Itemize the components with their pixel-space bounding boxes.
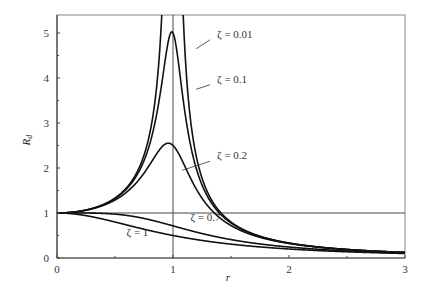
y-tick-label: 4 (44, 72, 50, 84)
annotation-label: ζ = 0.1 (217, 73, 247, 86)
annotation-label: ζ = 0.2 (217, 149, 247, 162)
curve-zeta-1 (57, 213, 405, 254)
annotation-label: ζ = 0.01 (217, 28, 253, 41)
annotation-label: ζ = 1 (127, 226, 149, 239)
y-tick-label: 0 (44, 252, 50, 264)
y-axis-label: Rd (20, 134, 34, 147)
y-tick-label: 1 (44, 207, 50, 219)
curve-zeta-0.7 (57, 213, 405, 253)
x-tick-label: 2 (286, 263, 292, 275)
y-tick-label: 3 (44, 117, 50, 129)
y-tick-label: 5 (44, 27, 50, 39)
annotation-label: ζ = 0.7 (190, 211, 221, 224)
curve-zeta-0.1 (57, 32, 405, 253)
frequency-response-chart: 0123012345 ζ = 0.01ζ = 0.1ζ = 0.2ζ = 0.7… (0, 0, 429, 296)
curve-annotations: ζ = 0.01ζ = 0.1ζ = 0.2ζ = 0.7ζ = 1 (127, 28, 253, 239)
y-tick-label: 2 (44, 162, 50, 174)
x-tick-label: 1 (170, 263, 176, 275)
x-axis-label: r (226, 271, 231, 283)
x-tick-label: 0 (54, 263, 60, 275)
x-tick-label: 3 (402, 263, 408, 275)
